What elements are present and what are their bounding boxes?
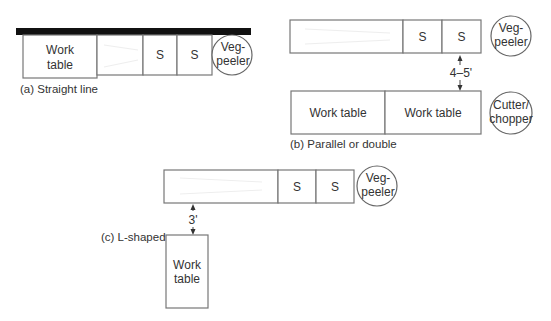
caption-c: (c) L-shaped [101,231,166,243]
sink-a-1-label: S [156,48,164,62]
veg-peeler-a-label-1: Veg- [221,40,246,54]
veg-peeler-c-label-2: peeler [361,185,394,199]
sink-b-2-label: S [457,30,465,44]
work-table-a-label-2: table [47,58,73,72]
sink-c-2-label: S [331,180,339,194]
veg-peeler-b-label-2: peeler [494,35,527,49]
sink-b-1-label: S [418,30,426,44]
work-table-b-1-label: Work table [309,106,366,120]
dimension-b-label: 4–5' [450,66,472,80]
work-table-c-label-1: Work [173,258,202,272]
veg-peeler-b-label-1: Veg- [499,21,524,35]
panel-a-straight-line: Work table S S Veg- peeler (a) Straight … [16,28,252,95]
veg-peeler-a-label-2: peeler [216,54,249,68]
kitchen-layout-diagram: Work table S S Veg- peeler (a) Straight … [0,0,551,321]
counter-c [164,170,278,203]
cutter-chopper-label-2: chopper [489,112,532,126]
sink-a-2-label: S [190,48,198,62]
cutter-chopper-label-1: Cutter/ [493,98,530,112]
dimension-c-label: 3' [189,213,198,227]
dimension-arrow-b: 4–5' [450,55,472,91]
work-table-b-2-label: Work table [404,106,461,120]
counter-b [290,20,403,53]
counter-a [97,35,143,75]
panel-b-parallel: S S Veg- peeler 4–5' Work table Work tab… [290,16,533,150]
sink-c-1-label: S [293,180,301,194]
veg-peeler-c-label-1: Veg- [366,171,391,185]
panel-c-l-shaped: S S Veg- peeler 3' (c) L-shaped Work tab… [101,166,397,308]
wall-bar [16,28,251,35]
caption-a: (a) Straight line [20,83,98,95]
work-table-c-label-2: table [174,272,200,286]
caption-b: (b) Parallel or double [290,138,397,150]
dimension-arrow-c: 3' [189,204,198,235]
work-table-a-label-1: Work [46,43,75,57]
